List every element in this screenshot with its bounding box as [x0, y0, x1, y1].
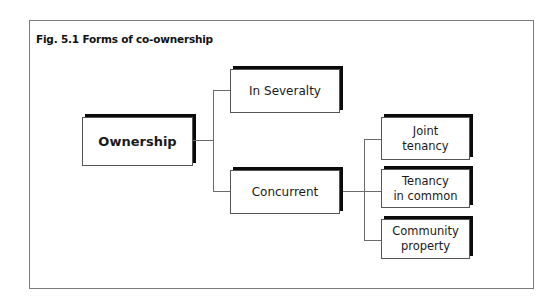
connector-to-in-severalty: [213, 90, 230, 91]
connector-level1-vertical: [213, 90, 214, 191]
node-tenancy-in-common-line2: in common: [393, 189, 457, 204]
node-ownership-label: Ownership: [98, 134, 176, 150]
connector-concurrent-to-branch: [343, 191, 364, 192]
node-ownership: Ownership: [82, 117, 193, 166]
node-tenancy-in-common: Tenancy in common: [381, 169, 470, 208]
connector-to-community-property: [364, 240, 381, 241]
connector-to-joint-tenancy: [364, 139, 381, 140]
node-concurrent-label: Concurrent: [252, 184, 319, 200]
node-in-severalty: In Severalty: [230, 69, 340, 113]
connector-root-to-branch: [193, 140, 213, 141]
node-joint-tenancy-line2: tenancy: [402, 139, 448, 154]
figure-title: Fig. 5.1 Forms of co-ownership: [36, 33, 213, 45]
node-community-property-line2: property: [392, 239, 459, 254]
node-in-severalty-label: In Severalty: [249, 83, 321, 99]
node-community-property-line1: Community: [392, 224, 459, 239]
node-community-property: Community property: [381, 219, 470, 259]
node-concurrent: Concurrent: [230, 170, 340, 214]
node-joint-tenancy: Joint tenancy: [381, 117, 470, 160]
connector-level2-vertical: [364, 139, 365, 240]
connector-to-concurrent: [213, 191, 230, 192]
connector-to-tenancy-in-common: [364, 191, 381, 192]
node-tenancy-in-common-line1: Tenancy: [393, 174, 457, 189]
node-joint-tenancy-line1: Joint: [402, 124, 448, 139]
